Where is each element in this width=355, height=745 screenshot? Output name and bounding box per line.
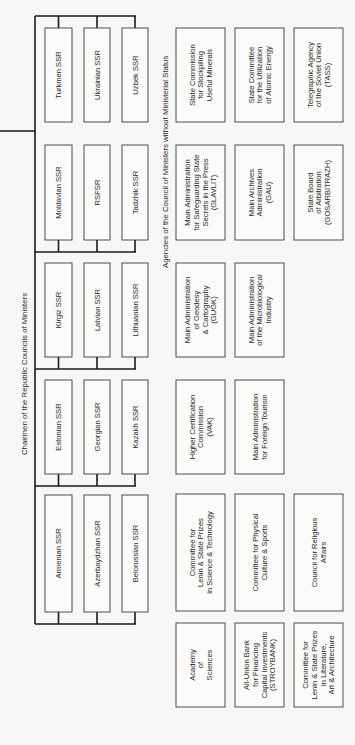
label-line: Latvian SSR [93,288,102,331]
label-line: of Atomic Energy [264,46,273,104]
label-line: Moldavian SSR [54,166,63,219]
label-line: Industry [264,296,273,323]
republic-label: Kirgiz SSR [54,291,63,328]
label-line: Lithuanian SSR [131,283,140,336]
label-line: Kirgiz SSR [54,291,63,328]
label-line: (VAK) [205,417,214,437]
label-line: (GLAVLIT) [209,174,218,210]
label-line: Culture & Sports [260,524,269,580]
label-line: for Foreign Tourism [260,394,269,459]
label-line: (STROYBANK) [268,639,277,691]
label-line: Ukrainian SSR [93,50,102,100]
republic-label: Armenian SSR [54,528,63,579]
org-chart: Turkmen SSRUkrainian SSRUzbek SSRMoldavi… [0,0,355,745]
republic-boxes: Turkmen SSRUkrainian SSRUzbek SSRMoldavi… [45,28,148,612]
agency-label: State Committeefor the Utilizationof Ato… [247,46,273,104]
label-line: Kazakh SSR [131,405,140,449]
republic-label: Estonian SSR [54,403,63,451]
republic-label: Lithuanian SSR [131,283,140,336]
label-line: Turkmen SSR [54,51,63,99]
label-line: (GOSARBITRAZH) [323,160,332,225]
label-line: (GUGK) [209,296,218,324]
label-line: in Science & Technology [205,511,214,594]
label-line: (GAU) [264,181,273,203]
label-line: Azerbaydzhan SSR [93,520,102,587]
republic-label: Kazakh SSR [131,405,140,449]
republic-label: Tadzhik SSR [131,170,140,214]
republic-label: Latvian SSR [93,288,102,331]
agency-label: All-Union Bankfor FinancingCapital Inves… [242,631,277,698]
republic-label: RSFSR [93,179,102,205]
label-line: Tadzhik SSR [131,170,140,214]
label-line: Affairs [319,542,328,564]
agency-label: Main Administrationfor Foreign Tourism [251,394,269,460]
republic-label: Georgian SSR [93,402,102,451]
label-line: Uzbek SSR [131,55,140,95]
agencies-heading: Agencies of the Council of Ministers wit… [161,56,170,268]
label-line: Sciences [205,649,214,680]
label-line: Belorussian SSR [131,524,140,582]
republic-label: Uzbek SSR [131,55,140,95]
republic-label: Belorussian SSR [131,524,140,582]
republic-label: Turkmen SSR [54,51,63,99]
republic-label: Moldavian SSR [54,166,63,219]
republic-label: Azerbaydzhan SSR [93,520,102,587]
agency-label: State Commissionfor StockpilingUseful Mi… [188,44,214,106]
label-line: Useful Minerals [205,49,214,102]
republics-heading: Chairmen of the Republic Councils of Min… [20,293,29,455]
agency-label: Committee for PhysicalCulture & Sports [251,513,269,591]
label-line: RSFSR [93,179,102,205]
label-line: Armenian SSR [54,528,63,579]
label-line: (TASS) [323,62,332,87]
republic-label: Ukrainian SSR [93,50,102,100]
agency-boxes: State Commissionfor StockpilingUseful Mi… [176,28,343,707]
label-line: Georgian SSR [93,402,102,451]
label-line: Art & Architecture [327,635,336,694]
label-line: Estonian SSR [54,403,63,451]
